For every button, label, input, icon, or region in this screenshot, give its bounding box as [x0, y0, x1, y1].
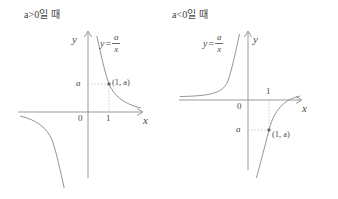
origin-label-negative: 0 — [237, 101, 242, 111]
point-label-negative: (1, a) — [272, 129, 290, 139]
figure-root: a>0일 때 y — [0, 0, 338, 199]
equation-equals-positive: = — [105, 38, 111, 49]
y-axis-label-positive: y — [72, 33, 77, 45]
equation-fraction-negative: a x — [215, 33, 224, 54]
equation-denominator-positive: x — [112, 43, 120, 54]
point-marker-negative — [267, 128, 270, 131]
panel-case-a-negative: a<0일 때 y — [169, 0, 338, 199]
equation-lhs-negative: y — [203, 38, 207, 49]
y-tick-label-negative: a — [236, 124, 241, 134]
equation-lhs-positive: y — [100, 38, 104, 49]
equation-denominator-negative: x — [215, 43, 223, 54]
y-tick-label-positive: a — [76, 78, 81, 88]
equation-label-positive: y = a x — [100, 33, 121, 54]
guide-lines-negative — [248, 100, 269, 130]
point-label-positive: (1, a) — [112, 77, 130, 87]
equation-numerator-positive: a — [112, 33, 121, 43]
plot-negative — [169, 0, 338, 199]
x-tick-label-negative: 1 — [266, 86, 271, 96]
x-axis-label-negative: x — [302, 102, 307, 114]
panel-case-a-positive: a>0일 때 y — [0, 0, 169, 199]
y-axis-label-negative: y — [253, 33, 258, 45]
guide-lines-positive — [88, 84, 109, 112]
equation-label-negative: y = a x — [203, 33, 224, 54]
origin-label-positive: 0 — [78, 113, 83, 123]
point-marker-positive — [107, 82, 110, 85]
curve-branch-q3-positive — [20, 116, 64, 188]
y-axis-positive — [85, 31, 92, 178]
x-axis-label-positive: x — [143, 114, 148, 126]
plot-positive — [0, 0, 169, 199]
x-tick-label-positive: 1 — [106, 113, 111, 123]
equation-equals-negative: = — [208, 38, 214, 49]
equation-fraction-positive: a x — [112, 33, 121, 54]
equation-numerator-negative: a — [215, 33, 224, 43]
